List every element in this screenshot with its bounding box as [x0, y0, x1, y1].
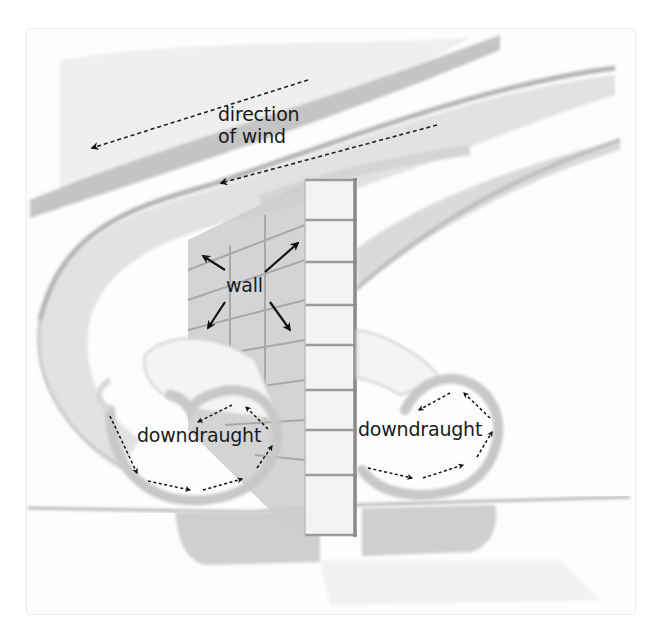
- downdraught-left-label: downdraught: [137, 424, 261, 446]
- wind-wall-illustration: [0, 0, 650, 641]
- wind-label-line1: direction: [218, 103, 299, 125]
- downdraught-right-label: downdraught: [358, 418, 482, 440]
- wall-label: wall: [226, 274, 263, 296]
- ground-shadow: [175, 505, 600, 605]
- right-vortex-tube: [357, 330, 498, 495]
- wall-front-face: [305, 178, 357, 537]
- wind-label-line2: of wind: [218, 125, 299, 147]
- wind-direction-label: direction of wind: [218, 103, 299, 147]
